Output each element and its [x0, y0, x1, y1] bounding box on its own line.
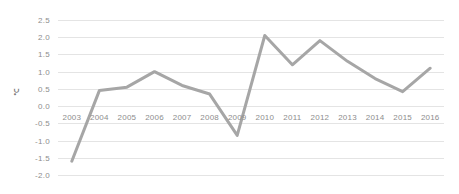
x-axis-tick-label: 2006 — [145, 113, 164, 122]
series-layer — [58, 20, 444, 175]
x-axis-tick-label: 2011 — [283, 113, 301, 122]
y-axis-tick-label: 1.0 — [38, 67, 50, 76]
x-axis-tick-label: 2012 — [311, 113, 330, 122]
y-axis-tick-label: -2.0 — [35, 171, 50, 180]
x-axis-tick-label: 2007 — [173, 113, 192, 122]
x-axis-tick-label: 2016 — [421, 113, 440, 122]
y-axis-tick-label: 2.5 — [38, 16, 50, 25]
series-line-temperature — [72, 36, 430, 162]
x-axis-tick-label: 2013 — [338, 113, 357, 122]
x-axis-tick-label: 2009 — [228, 113, 247, 122]
y-axis-tick-labels: 2.52.01.51.00.50.0-0.5-1.0-1.5-2.0 — [0, 0, 58, 194]
gridline — [58, 175, 444, 176]
x-axis-tick-label: 2010 — [255, 113, 274, 122]
x-axis-tick-label: 2005 — [118, 113, 137, 122]
y-axis-tick-label: -0.5 — [35, 119, 50, 128]
y-axis-tick-label: 2.0 — [38, 33, 50, 42]
x-axis-tick-label: 2003 — [62, 113, 81, 122]
y-axis-tick-label: 1.5 — [38, 50, 50, 59]
x-axis-tick-label: 2004 — [90, 113, 109, 122]
plot-area — [58, 20, 444, 175]
y-axis-tick-label: -1.5 — [35, 153, 50, 162]
x-axis-tick-label: 2008 — [200, 113, 219, 122]
y-axis-tick-label: -1.0 — [35, 136, 50, 145]
y-axis-tick-label: 0.5 — [38, 84, 50, 93]
x-axis-tick-labels: 2003200420052006200720082009201020112012… — [58, 113, 444, 125]
y-axis-tick-label: 0.0 — [38, 102, 50, 111]
x-axis-tick-label: 2015 — [393, 113, 412, 122]
x-axis-tick-label: 2014 — [366, 113, 385, 122]
line-chart: ℃ 2.52.01.51.00.50.0-0.5-1.0-1.5-2.0 200… — [0, 0, 459, 194]
